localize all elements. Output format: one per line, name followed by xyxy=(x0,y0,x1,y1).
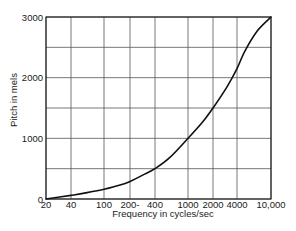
y-tick-label: 2000 xyxy=(22,72,43,83)
x-axis-title: Frequency in cycles/sec xyxy=(112,208,214,219)
y-axis-title: Pitch in mels xyxy=(8,73,19,127)
gridlines xyxy=(46,17,271,199)
x-tick-label: 10,000 xyxy=(256,199,285,210)
x-tick-label: 100 xyxy=(96,199,112,210)
y-tick-label: 0 xyxy=(38,194,43,205)
chart: 2040100200-40010002000400010,000 0100020… xyxy=(0,0,296,231)
y-tick-label: 3000 xyxy=(22,12,43,23)
y-tick-label: 1000 xyxy=(22,133,43,144)
x-tick-label: 4000 xyxy=(226,199,247,210)
x-tick-label: 40 xyxy=(66,199,77,210)
y-axis-tick-labels: 0100020003000 xyxy=(22,12,43,205)
